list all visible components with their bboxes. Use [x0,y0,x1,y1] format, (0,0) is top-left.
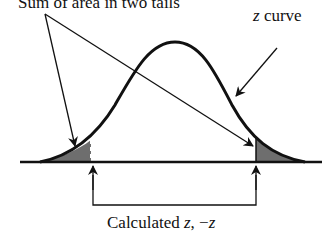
critical-values-bracket [93,175,256,205]
curve-label-rest: curve [260,6,302,25]
right-tail-shading [256,137,305,162]
calculated-z-label: Calculated z, −z [107,213,216,232]
curve-label: z curve [252,6,302,25]
curve-pointer-arrow [236,48,277,96]
title-label: Sum of area in two tails [18,0,180,12]
left-tail-arrow [45,14,75,146]
z-curve [40,42,305,162]
right-tail-arrow [45,14,253,146]
two-tailed-z-diagram: Sum of area in two tails z curve Calcula… [0,0,322,233]
